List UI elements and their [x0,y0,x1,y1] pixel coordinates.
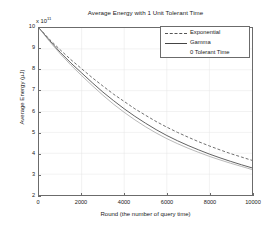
y-tick-label: 5 [16,130,35,136]
y-tick-mark [38,27,41,28]
x-tick-mark [124,193,125,196]
x-tick-label: 4000 [111,200,137,206]
legend-label-exponential: Exponential [190,29,220,35]
x-tick-mark [210,193,211,196]
y-tick-label: 2 [16,193,35,199]
x-axis-label: Round (the number of query time) [38,211,253,217]
y-axis-label: Average Energy (µJ) [19,37,25,157]
y-tick-mark [38,90,41,91]
y-tick-label: 8 [16,66,35,72]
legend-label-zero-tolerant-time: 0 Tolerant Time [190,49,230,55]
y-axis-exponent-base: x 10 [36,18,47,24]
x-tick-mark [167,193,168,196]
x-tick-label: 0 [25,200,51,206]
x-tick-mark [253,193,254,196]
y-tick-mark [38,112,41,113]
y-tick-mark [38,196,41,197]
y-tick-mark [38,154,41,155]
x-tick-label: 8000 [197,200,223,206]
x-tick-label: 10000 [240,200,266,206]
y-tick-mark [38,133,41,134]
legend-label-gamma: Gamma [190,39,211,45]
x-tick-mark [38,193,39,196]
y-axis-exponent-power: 11 [47,16,51,21]
x-tick-label: 6000 [154,200,180,206]
y-tick-label: 7 [16,87,35,93]
legend-line-sample-dashed-icon [165,33,187,34]
x-tick-mark [81,193,82,196]
y-axis-exponent-label: x 1011 [36,16,51,24]
y-tick-mark [38,48,41,49]
legend-item-zero-tolerant-time[interactable]: 0 Tolerant Time [161,48,249,58]
legend-line-sample-solid-icon [165,43,187,44]
y-tick-mark [38,69,41,70]
x-tick-label: 2000 [68,200,94,206]
legend-item-exponential[interactable]: Exponential [161,28,249,38]
y-tick-mark [38,175,41,176]
y-tick-label: 10 [16,24,35,30]
y-tick-label: 9 [16,45,35,51]
legend-item-gamma[interactable]: Gamma [161,38,249,48]
y-tick-label: 6 [16,109,35,115]
y-tick-label: 3 [16,172,35,178]
chart-title: Average Energy with 1 Unit Tolerant Time [38,9,253,16]
legend-box[interactable]: Exponential Gamma 0 Tolerant Time [160,26,250,58]
figure-canvas: Average Energy with 1 Unit Tolerant Time… [0,0,271,230]
y-tick-label: 4 [16,151,35,157]
